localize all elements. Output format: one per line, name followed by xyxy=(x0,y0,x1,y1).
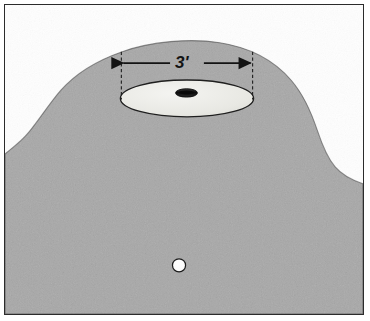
figure-root: 3' xyxy=(0,0,370,321)
illustration-canvas xyxy=(5,5,363,314)
figure-frame: 3' xyxy=(4,4,364,315)
three-foot-circle xyxy=(120,80,253,117)
golf-hole xyxy=(176,89,198,97)
dimension-label: 3' xyxy=(175,54,189,71)
stippled-rough xyxy=(5,5,363,273)
